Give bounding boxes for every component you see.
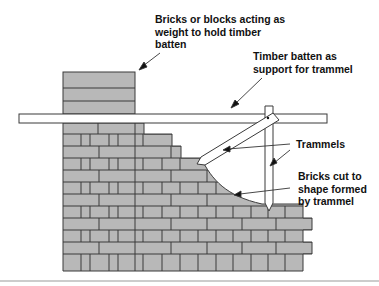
label-cut-bricks: Bricks cut to shape formed by trammel xyxy=(298,170,367,208)
label-weight-bricks: Bricks or blocks acting as weight to hol… xyxy=(155,13,285,51)
weight-bricks xyxy=(63,72,135,114)
timber-batten xyxy=(19,114,327,123)
pivot-pin xyxy=(267,117,269,119)
brick-wall xyxy=(63,123,330,271)
label-trammels: Trammels xyxy=(296,138,345,151)
label-timber-batten: Timber batten as support for trammel xyxy=(253,50,353,75)
